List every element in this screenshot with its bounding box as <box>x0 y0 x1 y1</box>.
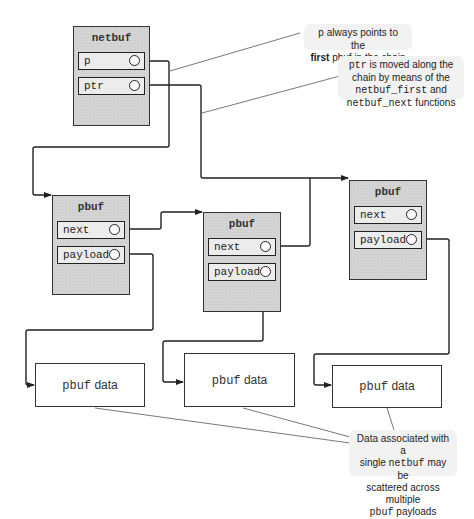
callout-text: functions <box>413 97 456 108</box>
netbuf-field-p: p <box>78 52 145 70</box>
pbuf-title: pbuf <box>350 186 426 198</box>
pointer-dot-icon <box>406 209 417 220</box>
callout-ptr-note: ptr is moved along the chain by means of… <box>338 56 464 100</box>
pointer-dot-icon <box>260 241 271 252</box>
callout-text: and <box>427 84 446 95</box>
pbuf-field-payload: payload <box>57 246 125 264</box>
pointer-dot-icon <box>109 249 120 260</box>
callout-data-note: Data associated with a single netbuf may… <box>349 430 457 476</box>
pbuf-field-next: next <box>57 221 125 239</box>
field-label: next <box>360 209 386 221</box>
data-box-mono: pbuf <box>212 374 241 388</box>
pbuf-field-payload: payload <box>354 231 422 249</box>
field-label: next <box>214 241 240 253</box>
callout-text: always points to the <box>324 27 398 51</box>
pointer-dot-icon <box>129 55 140 66</box>
pbuf-data-box-1: pbuf data <box>35 363 145 407</box>
field-label: next <box>63 224 89 236</box>
data-box-text: data <box>388 379 415 393</box>
data-box-mono: pbuf <box>62 379 91 393</box>
pbuf-title: pbuf <box>204 218 280 230</box>
netbuf-struct: netbuf p ptr <box>73 26 150 126</box>
callout-mono: netbuf_next <box>347 98 413 109</box>
netbuf-title: netbuf <box>74 32 149 44</box>
callout-mono: ptr <box>349 60 367 71</box>
pointer-dot-icon <box>129 80 140 91</box>
callout-mono: netbuf <box>389 458 425 469</box>
pbuf-data-box-2: pbuf data <box>184 353 295 407</box>
callout-bold: first <box>310 52 329 63</box>
field-label: payload <box>214 266 260 278</box>
callout-text: chain by means of the <box>344 72 458 84</box>
callout-text: is moved along the <box>367 59 454 70</box>
callout-mono: netbuf_first <box>355 85 427 96</box>
pbuf-struct-3: pbuf next payload <box>349 180 427 280</box>
pbuf-field-next: next <box>354 206 422 224</box>
callout-p-note: p always points to the first pbuf in the… <box>304 24 412 50</box>
callout-mono: pbuf <box>370 507 394 518</box>
pbuf-data-box-3: pbuf data <box>332 365 442 408</box>
pointer-dot-icon <box>406 234 417 245</box>
netbuf-field-ptr: ptr <box>78 77 145 95</box>
callout-text: payloads <box>394 506 437 517</box>
data-box-text: data <box>91 378 118 392</box>
pbuf-field-next: next <box>208 238 276 256</box>
field-label: p <box>84 55 91 67</box>
pointer-dot-icon <box>260 266 271 277</box>
field-label: payload <box>63 249 109 261</box>
pbuf-struct-2: pbuf next payload <box>203 212 281 312</box>
field-label: ptr <box>84 80 104 92</box>
field-label: payload <box>360 234 406 246</box>
callout-text: single <box>360 457 389 468</box>
pointer-dot-icon <box>109 224 120 235</box>
data-box-text: data <box>241 373 268 387</box>
pbuf-title: pbuf <box>53 201 129 213</box>
pbuf-struct-1: pbuf next payload <box>52 195 130 295</box>
pbuf-field-payload: payload <box>208 263 276 281</box>
data-box-mono: pbuf <box>359 380 388 394</box>
callout-text: scattered across multiple <box>355 482 451 506</box>
callout-text: Data associated with a <box>355 433 451 457</box>
